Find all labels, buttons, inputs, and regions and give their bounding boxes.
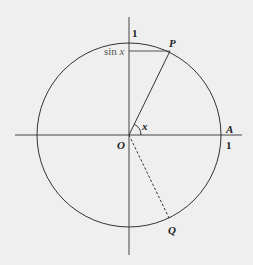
angle-x-label: x bbox=[141, 120, 148, 132]
radius-OP bbox=[129, 51, 170, 135]
point-P-label: P bbox=[169, 37, 176, 49]
y-axis-tick-label: 1 bbox=[132, 27, 138, 39]
sin-x-label: sin x bbox=[104, 45, 125, 57]
point-A-label: A bbox=[225, 123, 233, 135]
x-axis-tick-label: 1 bbox=[226, 139, 232, 151]
sin-fn: sin bbox=[104, 45, 117, 57]
sin-var: x bbox=[119, 45, 125, 57]
unit-circle-diagram: 1 sin x P x O A 1 Q bbox=[0, 0, 253, 265]
angle-arc bbox=[134, 124, 141, 135]
dashed-OQ bbox=[129, 135, 170, 220]
point-Q-label: Q bbox=[168, 224, 176, 236]
origin-O-label: O bbox=[117, 139, 125, 151]
